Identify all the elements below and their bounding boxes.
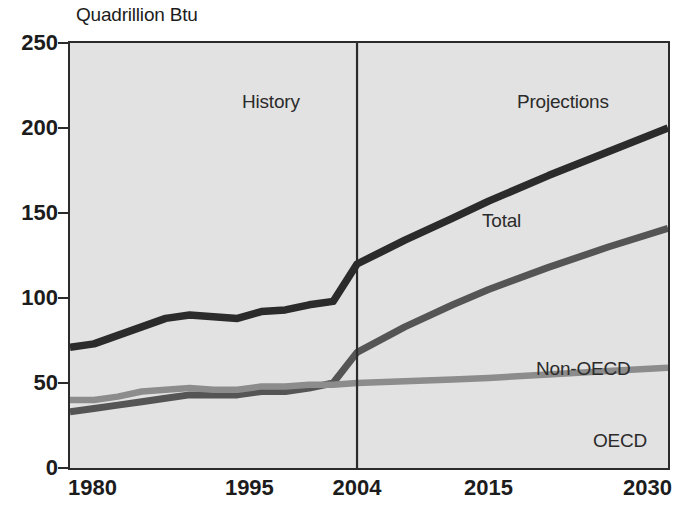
x-tick-label-1995: 1995	[225, 475, 274, 501]
series-label-total: Total	[482, 210, 521, 232]
x-axis: 19801995200420152030	[0, 475, 698, 519]
y-tick-mark-0	[58, 467, 68, 469]
projections-label: Projections	[517, 91, 609, 113]
x-tick-label-2030: 2030	[623, 475, 672, 501]
y-axis: 250200150100500	[0, 0, 58, 519]
energy-consumption-chart: Quadrillion Btu 250200150100500 History …	[0, 0, 698, 519]
x-tick-label-2015: 2015	[464, 475, 513, 501]
y-tick-mark-50	[58, 382, 68, 384]
y-tick-label-200: 200	[21, 115, 58, 141]
series-line-total	[70, 128, 668, 347]
y-axis-title: Quadrillion Btu	[76, 4, 198, 26]
y-tick-label-150: 150	[21, 200, 58, 226]
history-label: History	[242, 91, 300, 113]
series-label-non-oecd: Non-OECD	[536, 358, 630, 380]
y-tick-mark-150	[58, 212, 68, 214]
y-tick-label-100: 100	[21, 285, 58, 311]
x-tick-label-1980: 1980	[68, 475, 117, 501]
y-tick-label-250: 250	[21, 30, 58, 56]
plot-area: History Projections Total Non-OECD OECD	[68, 41, 670, 470]
y-tick-label-50: 50	[34, 370, 58, 396]
x-tick-label-2004: 2004	[333, 475, 382, 501]
y-tick-mark-200	[58, 127, 68, 129]
y-tick-mark-100	[58, 297, 68, 299]
series-label-oecd: OECD	[593, 430, 647, 452]
y-tick-mark-250	[58, 42, 68, 44]
